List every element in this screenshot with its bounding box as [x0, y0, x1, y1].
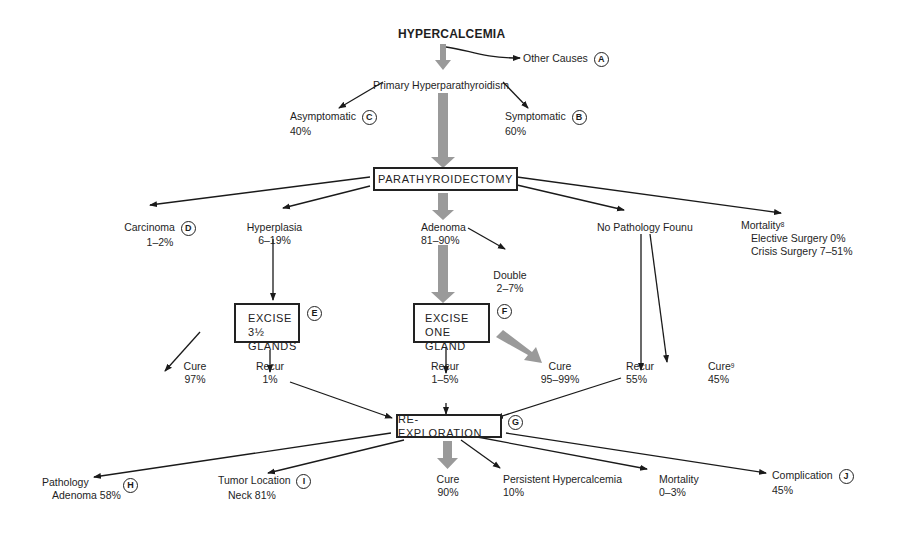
node-value: 0–3%: [659, 486, 686, 498]
marker-g-icon: G: [508, 415, 523, 430]
node-recur-1-5: Recur 1–5%: [425, 360, 465, 386]
node-label: Carcinoma: [124, 221, 175, 233]
marker-f-icon: F: [497, 304, 512, 319]
node-no-pathology-found: No Pathology Founu: [597, 221, 693, 234]
box-line: GLANDS: [248, 339, 298, 353]
node-value: 6–19%: [258, 234, 291, 246]
node-mortality-surgery: Mortality8 Elective Surgery 0% Crisis Su…: [741, 219, 853, 258]
marker-c-icon: C: [362, 110, 377, 125]
node-asymptomatic: Asymptomatic C 40%: [290, 110, 377, 138]
node-label: Cure: [184, 360, 207, 372]
node-value: 95–99%: [541, 373, 580, 385]
node-value: 40%: [290, 125, 311, 137]
marker-i-icon: I: [296, 474, 311, 489]
node-label: Pathology: [42, 476, 89, 488]
node-other-causes: Other Causes A: [523, 52, 609, 67]
root-title: HYPERCALCEMIA: [398, 28, 505, 41]
marker-a-icon: A: [594, 52, 609, 67]
box-parathyroidectomy: PARATHYROIDECTOMY: [373, 167, 518, 191]
node-value: 10%: [503, 486, 524, 498]
node-tumor-location: Tumor Location I Neck 81%: [218, 474, 311, 502]
node-label: Hyperplasia: [247, 221, 302, 233]
box-re-exploration: RE-EXPLORATION: [396, 414, 502, 438]
node-label: Persistent Hypercalcemia: [503, 473, 622, 485]
node-label: Double: [493, 269, 526, 281]
node-cure-90: Cure 90%: [430, 473, 466, 499]
node-mortality-reexploration: Mortality 0–3%: [659, 473, 699, 499]
node-value: 60%: [505, 125, 526, 137]
box-line: EXCISE ONE: [425, 311, 488, 339]
node-label: Recur: [626, 360, 654, 372]
node-value: 2–7%: [497, 282, 524, 294]
node-value: 81–90%: [421, 234, 460, 246]
marker-b-icon: B: [572, 110, 587, 125]
node-value: 1–5%: [432, 373, 459, 385]
node-value: 90%: [437, 486, 458, 498]
node-line: Crisis Surgery 7–51%: [741, 245, 853, 257]
node-adenoma: Adenoma 81–90%: [421, 221, 466, 247]
node-label: Mortality: [741, 219, 781, 231]
box-line: GLAND: [425, 339, 488, 353]
node-double: Double 2–7%: [490, 269, 530, 295]
footnote: 8: [781, 221, 785, 228]
node-recur-55: Recur 55%: [626, 360, 654, 386]
node-value: 55%: [626, 373, 647, 385]
node-label: Cure: [437, 473, 460, 485]
node-pathology: Pathology Adenoma 58%: [42, 476, 121, 502]
node-symptomatic: Symptomatic B 60%: [505, 110, 587, 138]
node-label: Other Causes: [523, 52, 588, 64]
footnote: 9: [731, 362, 735, 369]
box-line: EXCISE 3½: [248, 311, 298, 339]
node-cure-45: Cure9 45%: [708, 360, 734, 386]
marker-e-icon: E: [307, 306, 322, 321]
node-value: Neck 81%: [218, 489, 276, 501]
node-line: Elective Surgery 0%: [741, 232, 846, 244]
box-excise-one-gland: EXCISE ONE GLAND: [413, 303, 490, 343]
box-excise-3-5-glands: EXCISE 3½ GLANDS: [234, 303, 300, 343]
node-value: 1–2%: [147, 236, 174, 248]
node-label: Cure: [708, 360, 731, 372]
node-label: Symptomatic: [505, 110, 566, 122]
node-value: 45%: [708, 373, 729, 385]
node-label: Adenoma: [421, 221, 466, 233]
node-label: Cure: [549, 360, 572, 372]
node-persistent-hypercalcemia: Persistent Hypercalcemia 10%: [503, 473, 622, 499]
node-cure-95-99: Cure 95–99%: [530, 360, 590, 386]
marker-h-icon: H: [123, 478, 138, 493]
node-label: Recur: [431, 360, 459, 372]
node-carcinoma: Carcinoma D 1–2%: [115, 221, 205, 249]
node-label: Tumor Location: [218, 474, 291, 486]
node-label: Complication: [772, 469, 833, 481]
marker-j-icon: J: [839, 469, 854, 484]
node-label: Mortality: [659, 473, 699, 485]
node-hyperplasia: Hyperplasia 6–19%: [237, 221, 312, 247]
node-cure-97: Cure 97%: [175, 360, 215, 386]
node-value: 97%: [184, 373, 205, 385]
node-value: 1%: [262, 373, 277, 385]
node-complication: Complication J 45%: [772, 469, 854, 497]
node-value: Adenoma 58%: [42, 489, 121, 501]
node-recur-1: Recur 1%: [250, 360, 290, 386]
node-label: Asymptomatic: [290, 110, 356, 122]
node-label: Recur: [256, 360, 284, 372]
node-value: 45%: [772, 484, 793, 496]
marker-d-icon: D: [181, 221, 196, 236]
node-primary-hyperparathyroidism: Primary Hyperparathyroidism: [373, 79, 509, 92]
